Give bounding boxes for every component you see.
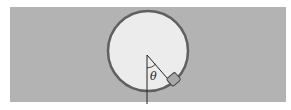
angle-label: θ: [150, 70, 157, 83]
diagram: θ: [0, 0, 291, 110]
